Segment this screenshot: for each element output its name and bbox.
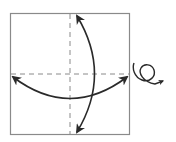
diagram-canvas	[0, 0, 176, 142]
turn-over-icon	[133, 63, 163, 84]
origami-diagram	[0, 0, 176, 142]
